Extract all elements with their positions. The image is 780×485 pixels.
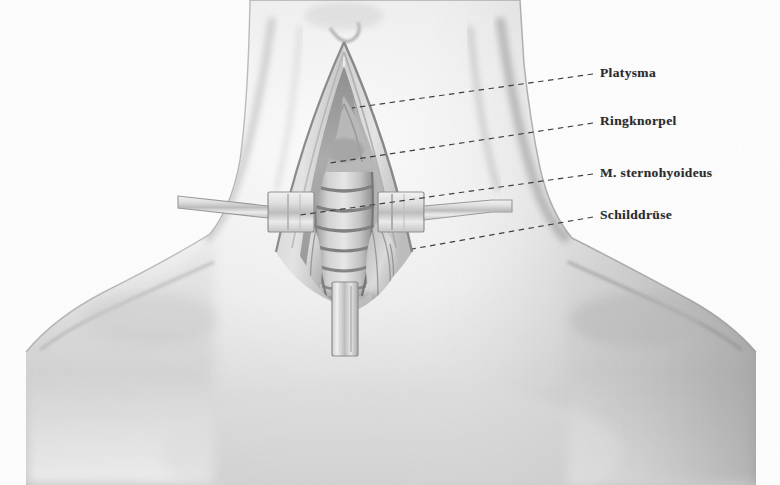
submental-shadow xyxy=(304,2,384,30)
label-schilddruese: Schilddrüse xyxy=(600,207,672,223)
fossa-right xyxy=(570,294,702,346)
label-platysma: Platysma xyxy=(600,65,656,81)
anatomical-plate xyxy=(0,0,780,485)
retractor-bottom xyxy=(332,282,358,356)
label-sternohyoideus: M. sternohyoideus xyxy=(600,165,712,181)
retractor-left-blade xyxy=(268,192,314,232)
retractor-bottom-blade xyxy=(332,282,358,356)
label-ringknorpel: Ringknorpel xyxy=(600,113,677,129)
retractor-right-blade xyxy=(378,192,424,232)
fossa-left xyxy=(84,294,216,346)
